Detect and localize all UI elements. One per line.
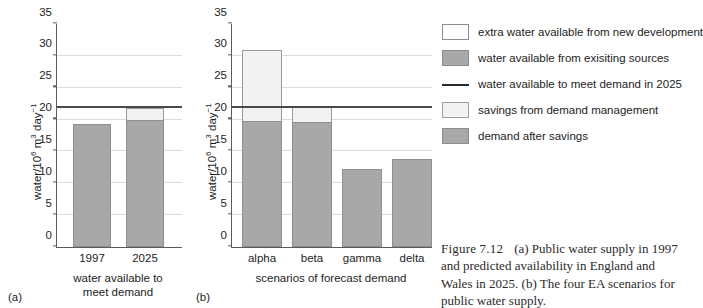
y-tick-label-a: 0 [46,230,52,242]
x-tick-label-a: 2025 [132,253,158,265]
y-tick-label-b: 15 [214,134,227,146]
legend-swatch-solid-box-icon [442,128,469,144]
y-tick-label-b: 0 [221,230,227,242]
bar-beta-demand [292,122,332,247]
y-tick-label-a: 10 [39,166,52,178]
legend-swatch-light-box-icon [442,102,469,118]
y-tick-mark [228,54,232,55]
x-tick-label-b: gamma [343,253,381,265]
y-tick-label-b: 20 [214,102,227,114]
legend-item-label: savings from demand management [478,104,658,117]
y-tick-mark [53,149,57,150]
y-tick-label-a: 20 [39,102,52,114]
gridline [57,55,182,56]
y-tick-label-a: 30 [39,39,52,51]
x-axis-label-a: water available to meet demand [52,271,184,300]
y-tick-label-b: 5 [221,198,227,210]
legend-item-label: water available from exisiting sources [478,52,669,65]
y-tick-mark [53,86,57,87]
gridline [57,87,182,88]
legend-swatch-open-box-icon [442,24,469,40]
legend-item-label: extra water available from new developme… [478,26,703,39]
legend-item: water available to meet demand in 2025 [442,71,692,97]
panel-letter-a: (a) [8,292,22,304]
legend-item: extra water available from new developme… [442,19,692,45]
y-axis-label-a: water/106 m3 day−1 [30,103,43,200]
plot-area-b: 0 5 10 15 20 25 30 35 alpha beta gamma d… [231,24,432,248]
y-tick-mark [228,149,232,150]
bar-alpha-demand [242,121,282,247]
panel-letter-b: (b) [196,292,210,304]
y-tick-mark [53,213,57,214]
x-axis-label-b: scenarios of forecast demand [226,271,436,285]
y-tick-label-a: 15 [39,134,52,146]
legend-item: savings from demand management [442,97,692,123]
reference-line-a [57,106,182,108]
legend-swatch-solid-box-icon [442,50,469,66]
x-tick-label-b: delta [400,253,425,265]
y-tick-mark [53,22,57,23]
y-tick-label-a: 25 [39,70,52,82]
legend-item: water available from exisiting sources [442,45,692,71]
y-tick-mark [53,54,57,55]
y-tick-mark [53,181,57,182]
bar-2025-existing [126,120,164,247]
y-tick-label-b: 35 [214,7,227,19]
y-axis-label-b: water/106 m3 day−1 [205,103,218,200]
bar-1997-existing [73,124,111,247]
legend-item-label: water available to meet demand in 2025 [478,78,682,91]
y-tick-mark [53,118,57,119]
y-tick-mark [228,118,232,119]
x-tick-label-a: 1997 [79,253,105,265]
legend-item-label: demand after savings [478,130,588,143]
y-tick-label-b: 10 [214,166,227,178]
y-tick-mark [228,22,232,23]
y-tick-mark [53,245,57,246]
y-tick-label-b: 30 [214,39,227,51]
y-tick-label-a: 5 [46,198,52,210]
legend-item: demand after savings [442,123,692,149]
figure-caption: Figure 7.12(a) Public water supply in 19… [441,240,689,308]
y-tick-mark [228,86,232,87]
x-tick-label-b: alpha [248,253,276,265]
legend: extra water available from new developme… [442,19,692,149]
reference-line-b [232,106,432,108]
y-tick-mark [228,245,232,246]
figure-number: Figure 7.12 [441,241,503,256]
x-tick-label-b: beta [301,253,323,265]
plot-area-a: 0 5 10 15 20 25 30 35 1997 2025 [56,24,182,248]
y-tick-mark [228,181,232,182]
legend-swatch-line-icon [442,76,469,92]
y-tick-label-b: 25 [214,70,227,82]
bar-gamma-demand [342,169,382,247]
bar-delta-demand [392,159,432,247]
y-tick-mark [228,213,232,214]
y-tick-label-a: 35 [39,7,52,19]
